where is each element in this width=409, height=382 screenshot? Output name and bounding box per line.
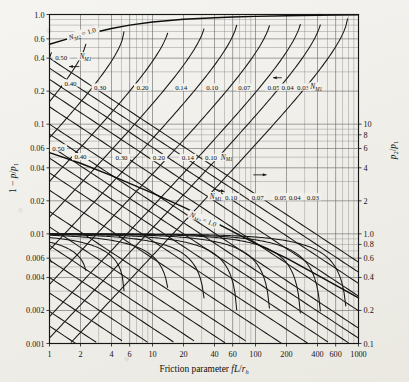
nm1-label-upper: 0.14 xyxy=(173,84,190,91)
y-right-tick-label: 0.4 xyxy=(364,273,374,282)
svg-text:0.10: 0.10 xyxy=(206,84,219,91)
svg-text:0.03: 0.03 xyxy=(297,84,310,91)
annot-nm2-top: NM2 = 1.0 xyxy=(66,24,101,43)
x-axis-title-prefix: Friction parameter xyxy=(159,364,231,374)
svg-text:0.14: 0.14 xyxy=(175,84,188,91)
annot-nm1-upper-series: NM1 xyxy=(308,82,322,92)
svg-text:Friction parameter fL/rh: Friction parameter fL/rh xyxy=(159,364,248,375)
y-right-tick-label: 1.0 xyxy=(364,230,374,239)
y-left-tick-label: 0.02 xyxy=(30,197,44,206)
y-left-tick-label: 1.0 xyxy=(34,11,44,20)
svg-text:0.40: 0.40 xyxy=(64,80,77,87)
y-right-tick-label: 4 xyxy=(364,164,368,173)
y-right-tick-label: 0.6 xyxy=(364,254,374,263)
y-left-tick-label: 0.001 xyxy=(26,340,44,349)
y-left-tick-label: 0.2 xyxy=(34,87,44,96)
x-tick-label: 200 xyxy=(280,350,292,359)
x-axis-title: Friction parameter fL/rh xyxy=(159,364,248,375)
nm1-label-lower: 0.03 xyxy=(304,193,321,200)
svg-text:0.20: 0.20 xyxy=(153,154,166,161)
x-axis-title-sub: h xyxy=(245,368,248,375)
curve-nm2-diagonal xyxy=(50,158,328,342)
nm1-label-mid: 0.30 xyxy=(113,154,130,161)
curve-nm2-diagonal xyxy=(50,107,359,311)
chart-canvas: 12461020406010020040060010001.00.60.40.2… xyxy=(0,0,409,382)
x-tick-label: 10 xyxy=(148,350,156,359)
svg-text:0.03: 0.03 xyxy=(307,194,320,201)
data-curves xyxy=(50,15,359,343)
svg-text:0.07: 0.07 xyxy=(252,194,265,201)
y-right-title-den-sub: 1 xyxy=(392,141,399,144)
svg-text:0.05: 0.05 xyxy=(268,84,281,91)
x-tick-label: 20 xyxy=(179,350,187,359)
annot-nm1-upper: NM1 xyxy=(77,52,91,62)
nm1-label-upper: 0.20 xyxy=(134,84,151,91)
y-left-tick-label: 0.06 xyxy=(30,144,44,153)
nm1-label-lower: 0.04 xyxy=(286,193,303,200)
svg-text:1 − p/p1: 1 − p/p1 xyxy=(8,163,19,193)
y-left-tick-label: 0.6 xyxy=(34,35,44,44)
nm1-label-lower: 0.10 xyxy=(223,193,240,200)
nm1-label-upper: 0.07 xyxy=(236,84,253,91)
nm1-label-mid: 0.20 xyxy=(150,154,167,161)
svg-text:0.10: 0.10 xyxy=(225,194,238,201)
y-left-tick-label: 0.4 xyxy=(34,54,44,63)
axis-tick-labels: 12461020406010020040060010001.00.60.40.2… xyxy=(26,11,374,359)
curve-nm1-lower xyxy=(50,235,168,287)
nm1-label-upper: 0.04 xyxy=(279,84,296,91)
nm1-label-mid: 0.40 xyxy=(72,153,89,160)
svg-text:0.30: 0.30 xyxy=(115,154,128,161)
y-left-tick-label: 0.1 xyxy=(34,120,44,129)
svg-text:0.14: 0.14 xyxy=(182,154,195,161)
y-left-title-den-sub: 1 xyxy=(12,163,19,166)
nm1-label-upper: 0.10 xyxy=(204,84,221,91)
plot-frame-rect xyxy=(50,15,359,344)
x-tick-label: 6 xyxy=(128,350,132,359)
x-tick-label: 2 xyxy=(78,350,82,359)
curve-nm2-diagonal xyxy=(50,173,308,343)
plot-frame xyxy=(50,15,359,344)
nm1-label-upper: 0.50 xyxy=(53,53,70,60)
nm1-label-mid: 0.14 xyxy=(179,154,196,161)
svg-text:0.50: 0.50 xyxy=(52,145,65,152)
curve-nm2-diagonal xyxy=(50,145,349,342)
curve-nm2-diagonal xyxy=(50,326,76,343)
fanno-flow-chart-figure: 12461020406010020040060010001.00.60.40.2… xyxy=(0,0,409,382)
x-tick-label: 60 xyxy=(229,350,237,359)
y-right-tick-label: 8 xyxy=(364,131,368,140)
svg-text:p2/p1: p2/p1 xyxy=(388,141,399,160)
y-right-tick-label: 0.2 xyxy=(364,306,374,315)
y-right-tick-label: 0.8 xyxy=(364,240,374,249)
y-right-tick-label: 0.1 xyxy=(364,340,374,349)
y-left-tick-label: 0.01 xyxy=(30,230,44,239)
x-tick-label: 400 xyxy=(311,350,323,359)
svg-text:0.40: 0.40 xyxy=(74,153,87,160)
x-tick-label: 40 xyxy=(210,350,218,359)
y-right-tick-label: 2 xyxy=(364,197,368,206)
y-left-tick-label: 0.04 xyxy=(30,164,44,173)
svg-text:0.04: 0.04 xyxy=(282,84,295,91)
svg-text:0.04: 0.04 xyxy=(289,194,302,201)
arrow-nm1-upper-right xyxy=(273,76,282,79)
svg-text:NM2 = 1.0: NM2 = 1.0 xyxy=(187,210,218,230)
nm1-label-upper: 0.40 xyxy=(62,79,79,86)
y-right-tick-label: 6 xyxy=(364,144,368,153)
svg-text:0.10: 0.10 xyxy=(205,154,218,161)
curve-nm1-upper xyxy=(50,29,205,217)
grid-major-lines xyxy=(50,15,359,344)
y-left-tick-label: 0.006 xyxy=(26,254,44,263)
svg-text:NM2 = 1.0: NM2 = 1.0 xyxy=(67,25,98,43)
y-left-tick-label: 0.004 xyxy=(26,273,44,282)
nm1-label-mid: 0.10 xyxy=(203,154,220,161)
y-left-tick-label: 0.002 xyxy=(26,306,44,315)
x-tick-label: 100 xyxy=(249,350,261,359)
x-axis-title-fl: fL xyxy=(231,364,239,374)
svg-text:0.20: 0.20 xyxy=(136,84,149,91)
svg-text:0.30: 0.30 xyxy=(94,84,107,91)
svg-text:0.50: 0.50 xyxy=(55,54,68,61)
y-left-title-lead: 1 − xyxy=(8,178,18,193)
nm1-label-upper: 0.30 xyxy=(92,84,109,91)
y-axis-left-title: 1 − p/p1 xyxy=(8,163,19,193)
x-tick-label: 4 xyxy=(109,350,113,359)
curve-nm2-diagonal xyxy=(50,311,96,342)
